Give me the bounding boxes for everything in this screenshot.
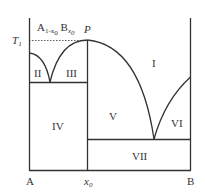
region-II: II [34, 68, 41, 79]
region-VII: VII [132, 151, 147, 162]
axis-label-A: A [26, 176, 34, 187]
axis-label-B: B [187, 176, 194, 187]
phase-diagram-lines [0, 0, 205, 196]
region-VI: VI [171, 118, 183, 129]
liquidus-B [154, 77, 191, 139]
peak-P-label: P [84, 24, 91, 35]
axis-label-x0: x0 [84, 176, 92, 191]
region-III: III [66, 68, 77, 79]
liquidus-compound-right [88, 40, 155, 139]
region-I: I [152, 58, 156, 69]
region-IV: IV [52, 121, 64, 132]
T1-label: T1 [12, 35, 22, 50]
region-V: V [109, 111, 117, 122]
compound-formula: A1-x0 Bx0 [37, 22, 75, 39]
